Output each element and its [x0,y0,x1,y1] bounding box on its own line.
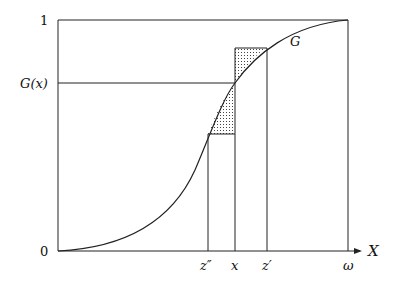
y-label-zero: 0 [40,244,48,259]
y-label-gx: G(x) [20,76,48,91]
shaded-region-lower [208,83,235,134]
x-label-x: x [231,258,239,273]
curve-label-g: G [290,34,300,49]
x-label-z-double-prime: z″ [199,258,212,273]
y-label-one: 1 [40,13,48,28]
curve-g [58,20,348,251]
distribution-diagram: 1 G(x) 0 G z″ x z′ ω X [0,0,400,286]
x-label-z-prime: z′ [261,258,272,273]
x-axis-arrow-icon [354,248,362,254]
x-label-omega: ω [343,258,354,273]
axis-label-x: X [367,242,380,260]
